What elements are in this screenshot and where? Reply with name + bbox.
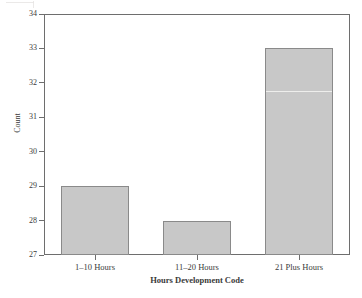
x-axis-title: Hours Development Code [44, 275, 350, 286]
y-tick-label: 31 [29, 111, 37, 122]
y-tick-label: 32 [29, 77, 37, 88]
y-tick-label: 27 [29, 249, 37, 260]
x-tick-mark [299, 255, 300, 260]
y-tick-label: 30 [29, 146, 37, 157]
x-tick-label: 21 Plus Hours [239, 262, 359, 273]
y-tick-label: 34 [29, 8, 37, 19]
bars-layer [44, 14, 350, 255]
x-tick-mark [197, 255, 198, 260]
y-tick-label: 29 [29, 180, 37, 191]
scan-artifact-corner [6, 2, 34, 3]
bar [265, 48, 333, 255]
bar-chart: Count 2728293031323334 1–10 Hours11–20 H… [0, 0, 362, 298]
y-tick-label: 33 [29, 42, 37, 53]
x-tick-mark [95, 255, 96, 260]
scan-artifact-line [266, 91, 332, 92]
y-axis-title: Count [13, 93, 23, 153]
y-tick-label: 28 [29, 215, 37, 226]
bar [163, 221, 231, 255]
bar [61, 186, 129, 255]
scan-artifact-corner-tick [33, 1, 34, 8]
